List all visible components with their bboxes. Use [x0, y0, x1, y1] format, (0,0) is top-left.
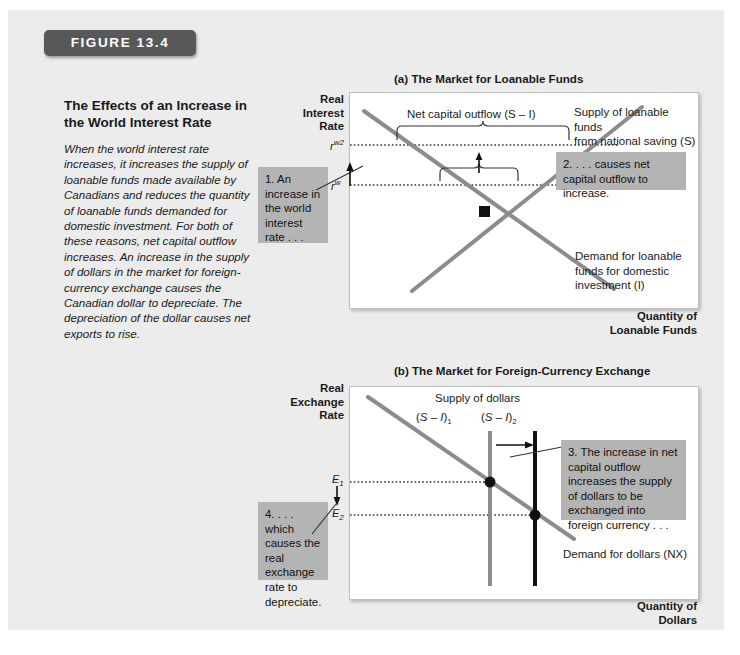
figure-page: FIGURE 13.4 The Effects of an Increase i… [8, 10, 724, 630]
panel-a-callout-2: 2. . . . causes net capital outflow to i… [556, 152, 686, 190]
panel-a-y-axis-label: Real Interest Rate [284, 93, 344, 134]
figure-number-banner: FIGURE 13.4 [44, 30, 196, 56]
panel-b-x-axis-label: Quantity of Dollars [577, 600, 697, 627]
panel-a-callout-1-leader-group [308, 150, 418, 230]
equilibrium-marker [479, 206, 490, 217]
panel-a-demand-label: Demand for loanable funds for domestic i… [575, 249, 682, 293]
panel-a-title: (a) The Market for Loanable Funds [394, 72, 583, 85]
caption-body: When the world interest rate increases, … [64, 141, 260, 341]
panel-a-brace-label: Net capital outflow (S – I) [407, 107, 535, 122]
panel-a-x-axis-label: Quantity of Loanable Funds [577, 310, 697, 337]
increase-up-arrow [476, 152, 483, 173]
panel-b-callout-3: 3. The increase in net capital outflow i… [561, 440, 686, 520]
demand-curve-dollars [368, 397, 574, 539]
panel-b-callout-4-leader-group [308, 498, 368, 558]
callout-1-leader [316, 166, 363, 190]
caption-title: The Effects of an Increase in the World … [64, 98, 260, 131]
panel-b-y-axis-label: Real Exchange Rate [276, 382, 344, 423]
panel-b-supply-1-label: (S – I)1 [416, 410, 452, 430]
net-capital-outflow-brace [397, 121, 569, 140]
figure-caption: The Effects of an Increase in the World … [64, 98, 260, 341]
panel-b-supply-2-label: (S – I)2 [481, 410, 517, 430]
equilibrium-dot-e2 [530, 510, 541, 521]
equilibrium-dot-e1 [485, 477, 496, 488]
figure-number-label: FIGURE 13.4 [44, 30, 196, 56]
panel-b-title: (b) The Market for Foreign-Currency Exch… [394, 364, 650, 377]
supply-shift-arrow [496, 442, 534, 449]
panel-a-tick-rw2-sup: w2 [334, 138, 344, 147]
panel-b-supply-header: Supply of dollars [435, 391, 520, 406]
panel-b-demand-label: Demand for dollars (NX) [563, 547, 687, 562]
panel-a-supply-label: Supply of loanable funds from national s… [574, 105, 698, 149]
callout-4-leader [312, 504, 336, 534]
